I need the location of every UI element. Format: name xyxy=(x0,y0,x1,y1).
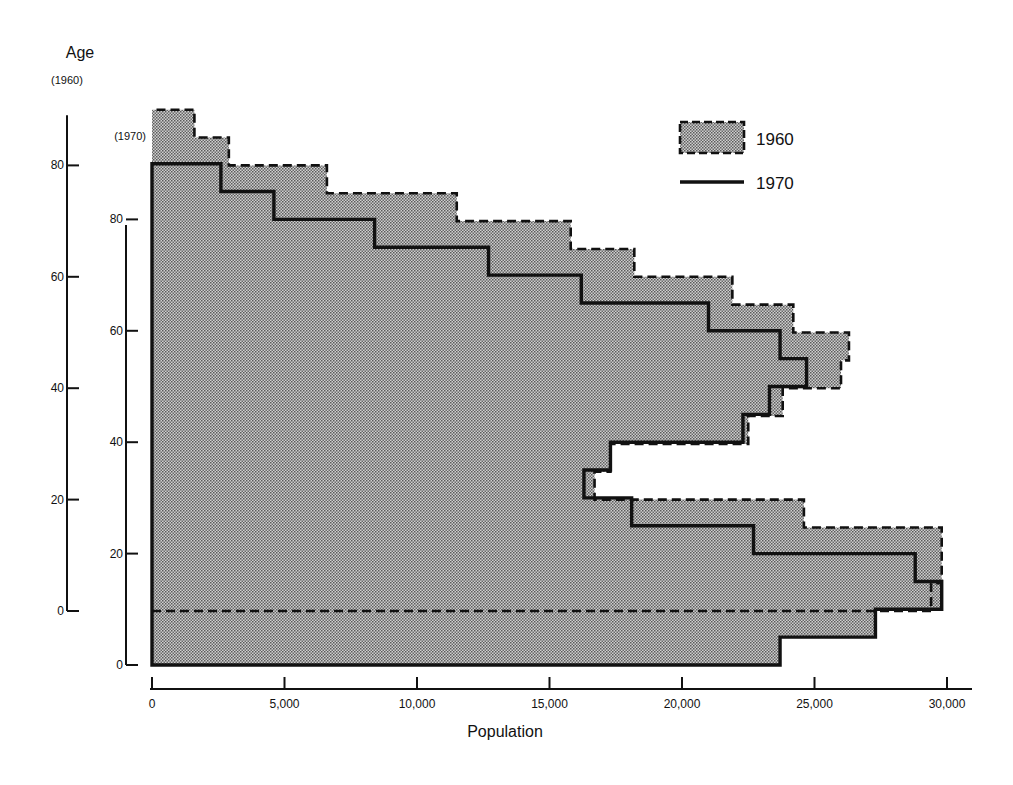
legend-1960-swatch xyxy=(680,122,744,153)
y-axis-1960: 020406080 xyxy=(51,115,79,618)
y-tick-label: 80 xyxy=(110,212,124,226)
y-tick-label: 60 xyxy=(110,324,124,338)
y-axis-1970-caption: (1970) xyxy=(114,130,146,142)
y-tick-label: 0 xyxy=(57,604,64,618)
legend: 1960 1970 xyxy=(680,122,794,193)
y-tick-label: 40 xyxy=(110,435,124,449)
y-tick-label: 80 xyxy=(51,158,65,172)
population-age-chart: Age (1960) (1970) 020406080 020406080 05… xyxy=(0,0,1013,785)
y-tick-label: 20 xyxy=(51,493,65,507)
x-tick-label: 5,000 xyxy=(269,697,299,711)
y-axis-1970: 020406080 xyxy=(110,212,138,672)
x-tick-label: 30,000 xyxy=(929,697,966,711)
y-axis-1960-caption: (1960) xyxy=(51,74,83,86)
legend-1960-label: 1960 xyxy=(756,130,794,149)
x-tick-label: 20,000 xyxy=(664,697,701,711)
legend-1970-label: 1970 xyxy=(756,174,794,193)
x-tick-label: 0 xyxy=(149,697,156,711)
x-axis: 05,00010,00015,00020,00025,00030,000 xyxy=(149,677,972,711)
y-tick-label: 20 xyxy=(110,547,124,561)
y-axis-title: Age xyxy=(66,44,95,61)
x-tick-label: 25,000 xyxy=(796,697,833,711)
y-tick-label: 60 xyxy=(51,270,65,284)
y-tick-label: 40 xyxy=(51,381,65,395)
x-tick-label: 15,000 xyxy=(531,697,568,711)
x-tick-label: 10,000 xyxy=(399,697,436,711)
y-tick-label: 0 xyxy=(116,658,123,672)
x-axis-title: Population xyxy=(467,723,543,740)
